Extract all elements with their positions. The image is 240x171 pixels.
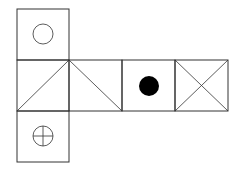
face-middle-4	[175, 60, 228, 111]
face-top	[17, 9, 69, 60]
face-middle-2	[69, 60, 122, 111]
face-bottom	[17, 111, 69, 162]
diagonal-line-icon	[17, 60, 69, 111]
face-middle-3	[122, 60, 175, 111]
face-middle-1	[17, 60, 69, 111]
face-top-border	[17, 9, 69, 60]
empty-circle-icon	[33, 24, 53, 44]
diagonal-line-icon	[69, 60, 122, 111]
filled-circle-icon	[139, 76, 159, 96]
cube-net-diagram	[0, 0, 240, 171]
